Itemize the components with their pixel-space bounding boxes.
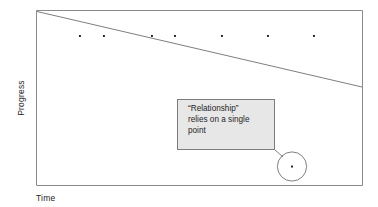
y-axis-label: Progress bbox=[16, 80, 26, 116]
data-point bbox=[174, 35, 176, 37]
data-point bbox=[221, 35, 223, 37]
data-point bbox=[151, 35, 153, 37]
data-point bbox=[313, 35, 315, 37]
trend-line bbox=[37, 12, 362, 88]
callout-line-1: “Relationship” bbox=[188, 104, 239, 113]
scatter-plot-figure: “Relationship” relies on a single point … bbox=[0, 0, 378, 207]
callout-line-2: relies on a single bbox=[188, 115, 250, 124]
x-axis-label: Time bbox=[36, 193, 55, 203]
data-point bbox=[103, 35, 105, 37]
data-point bbox=[79, 35, 81, 37]
data-point-group bbox=[79, 35, 315, 37]
data-point bbox=[267, 35, 269, 37]
callout-line-3: point bbox=[188, 126, 206, 135]
outlier-data-point bbox=[291, 166, 293, 168]
